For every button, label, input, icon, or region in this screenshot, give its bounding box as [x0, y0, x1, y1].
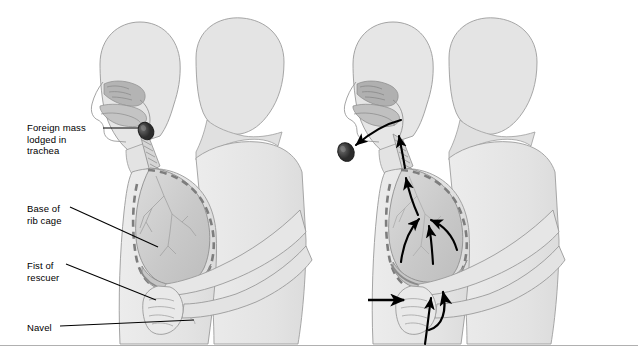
victim-head-right — [344, 22, 433, 150]
illustration-canvas — [0, 0, 638, 359]
rescuer-fist-left — [143, 286, 183, 334]
rescuer-head-left — [196, 18, 284, 135]
label-fist-of-rescuer: Fist of rescuer — [27, 260, 59, 283]
label-base-rib-cage: Base of rib cage — [27, 203, 62, 226]
panel-left — [60, 18, 312, 344]
label-foreign-mass: Foreign mass lodged in trachea — [27, 122, 86, 157]
foreign-mass-expelled — [335, 140, 357, 164]
label-navel: Navel — [27, 322, 52, 334]
victim-head-left — [91, 22, 180, 150]
rescuer-head-right — [449, 18, 537, 135]
illustration-figure: Foreign mass lodged in trachea Base of r… — [0, 0, 638, 359]
panel-right — [335, 18, 565, 344]
